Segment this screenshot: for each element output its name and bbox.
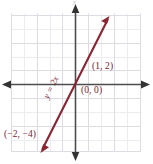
point-label-0-0: (0, 0) xyxy=(81,86,102,96)
point-label-1-2: (1, 2) xyxy=(92,62,113,72)
point-label-neg2-neg4: (−2, −4) xyxy=(4,130,36,140)
coordinate-plane-figure: (1, 2) (0, 0) (−2, −4) y = 2x y xyxy=(0,0,153,164)
y-axis-label: y xyxy=(73,0,76,6)
